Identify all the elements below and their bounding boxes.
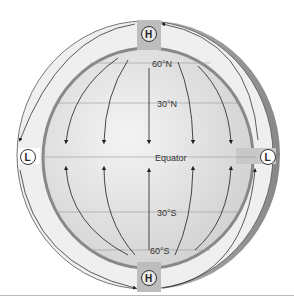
label-30s: 30°S (157, 208, 177, 218)
high-pressure-north-label: H (145, 29, 152, 40)
low-pressure-east-label: L (265, 152, 271, 163)
bottom-divider (0, 295, 294, 296)
high-pressure-south-label: H (145, 273, 152, 284)
label-60n: 60°N (152, 59, 172, 69)
circulation-diagram: 60°N 30°N Equator 30°S 60°S H H L L (0, 0, 294, 306)
label-30n: 30°N (157, 99, 177, 109)
globe (43, 48, 253, 268)
label-equator: Equator (155, 153, 187, 163)
low-pressure-west-label: L (25, 152, 31, 163)
label-60s: 60°S (150, 246, 170, 256)
